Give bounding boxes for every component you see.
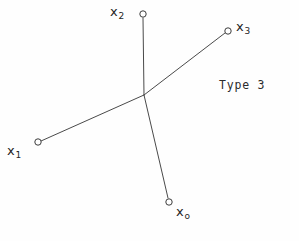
node-label-x0-base: x <box>176 204 184 219</box>
node-label-x1-base: x <box>7 143 15 158</box>
node-label-x1-subscript: 1 <box>15 150 22 160</box>
node-label-x2: x2 <box>110 5 125 21</box>
figure-type-caption: Type 3 <box>219 78 265 92</box>
figure-container: x2 x3 x1 xo Type 3 <box>0 0 299 241</box>
node-marker-x3 <box>225 28 231 34</box>
graph-drawing-canvas <box>0 0 299 241</box>
edge-center-x3 <box>144 33 225 95</box>
node-label-x2-base: x <box>110 4 118 19</box>
node-label-x3: x3 <box>236 20 251 36</box>
edge-group <box>41 18 225 198</box>
node-label-x3-subscript: 3 <box>244 26 251 36</box>
node-label-x2-subscript: 2 <box>118 11 125 21</box>
edge-x2-center <box>143 18 144 95</box>
node-label-x3-base: x <box>236 19 244 34</box>
node-label-x0: xo <box>176 205 190 221</box>
edge-x1-center <box>41 95 144 141</box>
node-marker-x1 <box>35 139 41 145</box>
node-marker-x2 <box>140 11 146 17</box>
node-label-x0-subscript: o <box>184 211 190 221</box>
node-label-x1: x1 <box>7 144 22 160</box>
edge-center-x0 <box>144 95 168 198</box>
node-marker-x0 <box>166 199 172 205</box>
node-marker-group <box>35 11 231 205</box>
